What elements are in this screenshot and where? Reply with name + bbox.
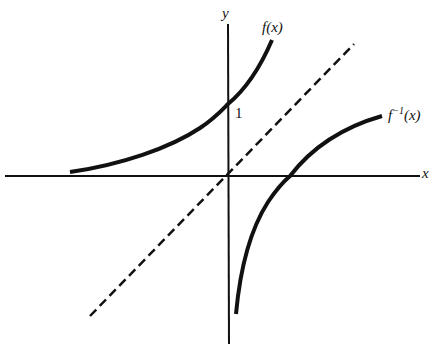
f-inverse-label-sup: −1 — [392, 105, 404, 116]
f-label-arg: (x) — [266, 19, 283, 35]
function-inverse-diagram: y x 1 f(x) f−1(x) — [0, 0, 432, 344]
identity-line — [90, 44, 354, 316]
f-label: f(x) — [262, 20, 283, 35]
f-inverse-label-arg: (x) — [404, 107, 421, 123]
y-axis-label: y — [222, 6, 229, 21]
x-axis-label: x — [422, 166, 429, 181]
y-axis — [228, 24, 229, 344]
f-inverse-curve — [236, 116, 382, 314]
f-inverse-label: f−1(x) — [388, 106, 421, 123]
y-intercept-label: 1 — [235, 106, 243, 121]
diagram-canvas — [0, 0, 432, 344]
